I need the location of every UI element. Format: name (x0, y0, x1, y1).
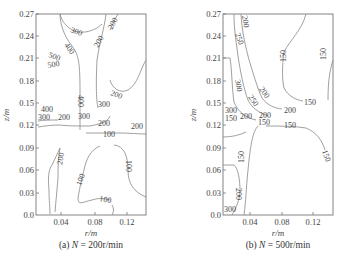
panel-b: 0.27 0.24 0.21 0.18 0.15 0.12 0.09 0.06 … (188, 9, 333, 251)
svg-text:0.18: 0.18 (19, 76, 34, 86)
caption-a: (a) N = 200r/min (59, 240, 123, 251)
svg-text:200: 200 (131, 122, 143, 131)
svg-text:300: 300 (78, 112, 90, 121)
svg-text:150: 150 (304, 98, 316, 107)
svg-text:0.24: 0.24 (19, 31, 35, 41)
x-axis-label-b: r/m (272, 228, 285, 238)
svg-text:200: 200 (240, 15, 251, 28)
svg-text:200: 200 (234, 188, 243, 200)
svg-text:0.24: 0.24 (206, 31, 222, 41)
svg-text:0.09: 0.09 (206, 143, 221, 153)
contour-figure: 0.27 0.24 0.21 0.18 0.15 0.12 0.09 0.06 … (0, 0, 339, 259)
svg-text:0.06: 0.06 (19, 165, 34, 175)
contour-labels-b: 200 250 150 150 300 200 250 150 200 300 … (224, 15, 333, 214)
x-tick-labels-a: 0.04 0.08 0.12 (54, 217, 135, 227)
svg-text:200: 200 (92, 34, 106, 49)
svg-text:0.21: 0.21 (19, 53, 34, 63)
x-tick-labels-b: 0.04 0.08 0.12 (243, 217, 321, 227)
svg-text:0.27: 0.27 (19, 9, 34, 19)
svg-text:200: 200 (98, 119, 110, 128)
svg-text:0.12: 0.12 (206, 120, 221, 130)
svg-text:0.04: 0.04 (54, 217, 70, 227)
svg-text:300: 300 (98, 100, 110, 109)
contour-labels-a: 300 400 200 500 500 200 400 300 400 300 … (38, 16, 143, 205)
svg-text:0.15: 0.15 (19, 98, 34, 108)
svg-text:0.12: 0.12 (19, 120, 34, 130)
svg-text:200: 200 (109, 88, 123, 101)
svg-text:0.18: 0.18 (206, 76, 221, 86)
svg-text:200: 200 (55, 152, 66, 165)
svg-text:0.03: 0.03 (19, 188, 34, 198)
y-axis-label-b: z/m (188, 108, 198, 122)
svg-text:0.0: 0.0 (23, 210, 34, 220)
svg-text:500: 500 (47, 59, 60, 70)
svg-text:300: 300 (233, 79, 244, 92)
svg-text:100: 100 (74, 172, 87, 186)
y-axis-label-a: z/m (1, 108, 11, 122)
svg-text:0.04: 0.04 (243, 217, 259, 227)
svg-text:250: 250 (233, 32, 246, 46)
caption-b: (b) N = 500r/min (246, 240, 311, 251)
svg-text:150: 150 (225, 114, 237, 123)
svg-text:0.08: 0.08 (275, 217, 290, 227)
svg-text:400: 400 (76, 95, 85, 107)
svg-text:100: 100 (99, 194, 112, 205)
svg-text:0.03: 0.03 (206, 188, 221, 198)
y-tick-labels-a: 0.27 0.24 0.21 0.18 0.15 0.12 0.09 0.06 … (19, 9, 35, 220)
x-axis-label-a: r/m (85, 228, 98, 238)
svg-text:0.12: 0.12 (120, 217, 135, 227)
svg-text:200: 200 (58, 113, 70, 122)
svg-text:0.09: 0.09 (19, 143, 34, 153)
panel-a: 0.27 0.24 0.21 0.18 0.15 0.12 0.09 0.06 … (1, 9, 146, 251)
svg-text:150: 150 (279, 50, 288, 62)
svg-text:100: 100 (124, 160, 133, 172)
svg-text:150: 150 (284, 121, 296, 130)
svg-text:150: 150 (237, 151, 246, 163)
svg-text:0.15: 0.15 (206, 98, 221, 108)
svg-text:250: 250 (246, 93, 260, 108)
svg-text:0.12: 0.12 (306, 217, 321, 227)
svg-text:200: 200 (257, 85, 271, 100)
y-tick-labels-b: 0.27 0.24 0.21 0.18 0.15 0.12 0.09 0.06 … (206, 9, 222, 220)
svg-text:0.06: 0.06 (206, 165, 221, 175)
svg-text:150: 150 (320, 149, 333, 163)
svg-text:0.21: 0.21 (206, 53, 221, 63)
svg-text:200: 200 (240, 112, 252, 121)
svg-text:150: 150 (319, 48, 328, 60)
svg-text:0.08: 0.08 (88, 217, 103, 227)
svg-text:300: 300 (69, 25, 83, 38)
svg-text:0.27: 0.27 (206, 9, 221, 19)
svg-text:200: 200 (106, 16, 120, 31)
svg-text:300: 300 (38, 113, 50, 122)
plot-frame-a (36, 14, 146, 215)
svg-text:0.0: 0.0 (210, 210, 221, 220)
svg-text:300: 300 (224, 205, 236, 214)
svg-text:150: 150 (258, 118, 270, 127)
svg-text:100: 100 (103, 130, 115, 139)
svg-text:200: 200 (284, 106, 296, 115)
svg-text:400: 400 (62, 41, 76, 56)
